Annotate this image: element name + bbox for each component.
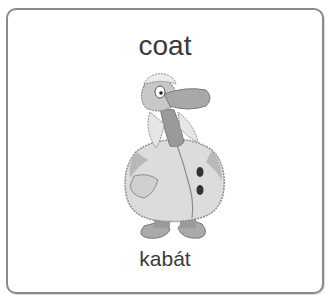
bear-in-coat-icon xyxy=(114,68,234,243)
english-word: coat xyxy=(8,30,322,62)
translated-word: kabát xyxy=(8,247,322,271)
flashcard[interactable]: coat xyxy=(6,8,324,294)
